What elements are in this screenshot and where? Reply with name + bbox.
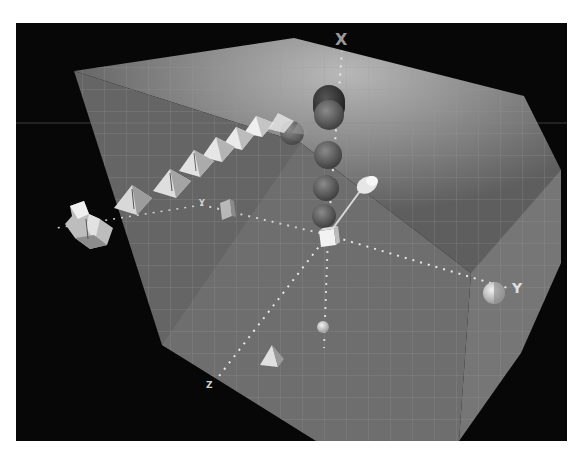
scene-canvas: X Y Z Y [16,23,567,441]
irregular-mesh-object[interactable] [65,201,113,249]
origin-cube[interactable] [319,226,340,247]
y-axis-sphere[interactable] [483,282,505,304]
sphere-icon[interactable] [314,141,342,169]
y-axis-label: Y [511,280,523,296]
3d-viewport[interactable]: X Y Z Y [16,23,567,441]
sphere-icon[interactable] [314,100,344,130]
neg-y-axis-label: Y [198,199,205,208]
sphere-icon[interactable] [312,204,336,228]
small-sphere[interactable] [317,321,329,333]
x-axis-label: X [335,30,348,49]
z-axis-label: Z [206,380,213,390]
sphere-icon[interactable] [313,175,339,201]
